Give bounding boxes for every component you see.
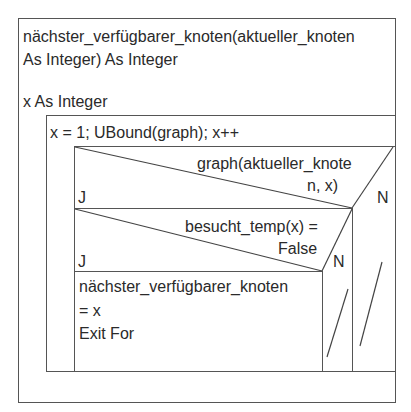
if-outer-yes-label: J — [78, 187, 86, 208]
action-line3: Exit For — [79, 323, 134, 344]
if-inner-condition-line1: besucht_temp(x) = — [185, 216, 318, 237]
if-outer-condition-line2: n, x) — [307, 175, 338, 196]
if-inner-no-label: N — [333, 251, 345, 272]
if-outer-no-label: N — [377, 187, 389, 208]
diagram-lines — [0, 0, 411, 412]
if-inner-condition-line2: False — [278, 238, 317, 259]
action-line2: = x — [79, 300, 101, 321]
if-outer-condition-line1: graph(aktueller_knote — [197, 153, 352, 174]
if-inner-yes-label: J — [78, 251, 86, 272]
action-line1: nächster_verfügbarer_knoten — [79, 276, 288, 297]
